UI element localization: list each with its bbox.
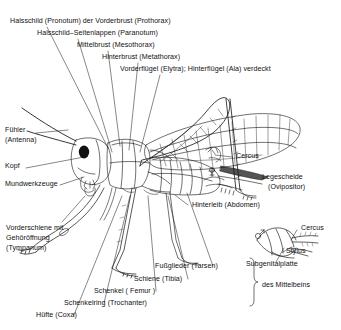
label-antenna-line2: (Antenna) <box>5 136 37 146</box>
label-tarsus: Fußglieder (Tarsen) <box>155 262 218 272</box>
male-symbol-glyph <box>255 230 264 239</box>
label-tympanum-line1: Vorderschiene mit <box>6 224 64 234</box>
label-tympanum-line2: Gehöröffnung <box>6 234 50 244</box>
label-paranotum: Halsschild–Seitenlappen (Paranotum) <box>37 29 158 39</box>
label-head: Kopf <box>5 162 20 172</box>
label-femur: Schenkel ( Femur ) <box>94 287 155 297</box>
forewing <box>145 114 301 170</box>
label-tibia: Schiene (Tibia) <box>134 275 182 285</box>
label-midleg-brace: des Mittelbeins <box>262 281 310 291</box>
label-abdomen: Hinterleib (Abdomen) <box>192 201 260 211</box>
compound-eye <box>79 146 89 159</box>
label-trochanter: Schenkelring (Trochanter) <box>64 299 147 309</box>
label-antenna-line1: Fühler <box>5 126 25 136</box>
label-pronotum: Halsschild (Pronotum) der Vorderbrust (P… <box>10 17 171 27</box>
front-leg-far <box>100 188 116 220</box>
label-tympanum-line3: (Tympanum) <box>6 244 46 254</box>
ovipositor <box>218 166 268 195</box>
leader-lines-legs <box>74 193 213 315</box>
label-mouthparts: Mundwerkzeuge <box>5 180 58 190</box>
pronotum <box>107 139 150 189</box>
figure-canvas: Halsschild (Pronotum) der Vorderbrust (P… <box>0 0 341 330</box>
label-ovipositor-line2: (Ovipositor) <box>268 183 305 193</box>
label-coxa: Hüfte (Coxa) <box>36 311 77 321</box>
label-cercus-inset: Cercus <box>301 224 324 234</box>
label-ovipositor-line1: Legescheide <box>262 173 303 183</box>
mid-leg <box>112 188 136 278</box>
label-mesothorax: Mittelbrust (Mesothorax) <box>77 41 155 51</box>
hind-tarsus <box>236 190 256 200</box>
label-cercus-main: Cercus <box>236 152 259 162</box>
mouthparts <box>81 177 96 196</box>
label-subgenital: Subgenitalplatte <box>246 260 298 270</box>
head <box>71 138 111 185</box>
label-wings: Vorderflügel (Elytra); Hinterflügel (Ala… <box>120 65 271 75</box>
label-stylus: Stylus <box>286 247 306 257</box>
hind-femur <box>140 98 230 166</box>
label-metathorax: Hinterbrust (Metathorax) <box>102 53 180 63</box>
abdomen <box>150 157 220 195</box>
